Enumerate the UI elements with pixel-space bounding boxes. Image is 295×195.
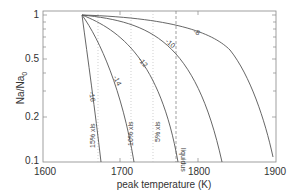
label-curve-minus8: -8	[193, 28, 202, 37]
x-tick-1600: 1600	[34, 166, 57, 177]
label-ref-5pct: 5% xls	[154, 121, 161, 142]
label-ref-liquidus: liquidus	[179, 148, 187, 172]
reference-lines	[98, 11, 176, 162]
x-tick-1800: 1800	[188, 166, 211, 177]
x-axis-title: peak temperature (K)	[117, 179, 212, 190]
y-tick-0.5: 0.5	[25, 53, 39, 64]
label-curve-minus12: -12	[137, 56, 149, 68]
svg-text:Na/Na0: Na/Na0	[15, 72, 28, 104]
chart-svg: 1 0.5 0.2 0.1 1600 1700 1800 1900 peak t…	[0, 0, 295, 195]
y-tick-1: 1	[33, 9, 39, 20]
curve-minus10	[82, 15, 222, 162]
y-tick-0.2: 0.2	[25, 111, 39, 122]
label-curve-minus14: -14	[112, 74, 123, 86]
x-tick-1900: 1900	[264, 166, 287, 177]
y-axis-title: Na/Na0	[15, 72, 28, 104]
label-ref-15pct: 15% xls	[89, 123, 96, 148]
label-curve-minus10: -10	[164, 37, 176, 49]
y-tick-0.1: 0.1	[25, 155, 39, 166]
curve-minus8	[82, 15, 273, 157]
label-ref-10pct: 10% xls	[127, 121, 134, 146]
curves	[82, 15, 273, 162]
label-curve-minus16: -16	[88, 91, 97, 102]
x-tick-1700: 1700	[111, 166, 134, 177]
